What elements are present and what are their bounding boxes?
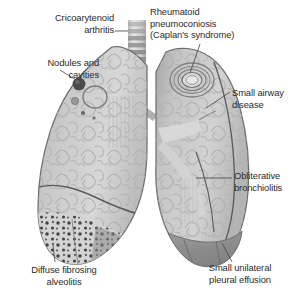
label-line: Small airway: [232, 87, 297, 99]
label-line: Nodules and: [2, 57, 99, 69]
label-nodules-and-cavities: Nodules and cavities: [2, 57, 99, 80]
lung-illustration: [0, 0, 297, 301]
label-line: (Caplan's syndrome): [150, 29, 278, 41]
label-line: alveolitis: [8, 276, 120, 288]
label-cricoarytenoid-arthritis: Cricoarytenoid arthritis: [6, 12, 114, 35]
label-line: disease: [232, 99, 297, 111]
label-rheumatoid-pneumoconiosis: Rheumatoid pneumoconiosis (Caplan's synd…: [150, 6, 278, 41]
right-lung: [147, 40, 260, 280]
right-lung-basal-striations: [178, 178, 200, 224]
left-lung-nodule-small-b: [92, 116, 95, 119]
label-line: pleural effusion: [184, 274, 296, 286]
label-line: bronchiolitis: [234, 182, 297, 194]
label-line: Cricoarytenoid: [6, 12, 114, 24]
label-line: Rheumatoid: [150, 6, 278, 18]
label-obliterative-bronchiolitis: Obliterative bronchiolitis: [234, 170, 297, 193]
label-line: Obliterative: [234, 170, 297, 182]
lung-pathology-figure: Cricoarytenoid arthritis Nodules and cav…: [0, 0, 297, 301]
label-line: Small unilateral: [184, 262, 296, 274]
label-small-unilateral-pleural-effusion: Small unilateral pleural effusion: [184, 262, 296, 285]
left-lung-nodule-highlight: [75, 80, 80, 85]
left-lung-cavity-small: [71, 97, 78, 104]
left-lung-hilar-striations: [108, 96, 136, 148]
label-line: Diffuse fibrosing: [8, 264, 120, 276]
label-diffuse-fibrosing-alveolitis: Diffuse fibrosing alveolitis: [8, 264, 120, 287]
label-small-airway-disease: Small airway disease: [232, 87, 297, 110]
label-line: pneumoconiosis: [150, 18, 278, 30]
label-line: cavities: [2, 69, 99, 81]
label-line: arthritis: [6, 24, 114, 36]
left-lung-nodule-small-a: [81, 111, 85, 115]
